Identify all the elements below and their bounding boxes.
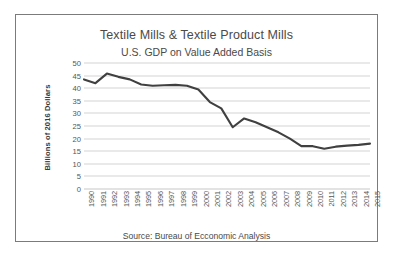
x-axis-tick-2003: 2003 [236, 191, 245, 207]
chart-frame: Textile Mills & Textile Product Mills U.… [15, 14, 378, 242]
x-axis-tick-2002: 2002 [224, 191, 233, 207]
x-axis-tick-2012: 2012 [339, 191, 348, 207]
y-axis-tick-35: 35 [61, 96, 81, 105]
x-axis-tick-1990: 1990 [87, 191, 96, 207]
y-axis-tick-20: 20 [61, 134, 81, 143]
x-axis-tick-2015: 2015 [373, 191, 382, 207]
x-axis-tick-2006: 2006 [270, 191, 279, 207]
y-axis-tick-50: 50 [61, 59, 81, 68]
x-axis-tick-1997: 1997 [167, 191, 176, 207]
y-axis-tick-40: 40 [61, 84, 81, 93]
x-axis-tick-2009: 2009 [305, 191, 314, 207]
x-axis-tick-2001: 2001 [213, 191, 222, 207]
x-axis-tick-1992: 1992 [110, 191, 119, 207]
x-axis-tick-2004: 2004 [247, 191, 256, 207]
x-axis-tick-2005: 2005 [259, 191, 268, 207]
y-axis-tick-5: 5 [61, 172, 81, 181]
y-axis-tick-10: 10 [61, 159, 81, 168]
chart-title: Textile Mills & Textile Product Mills [16, 28, 377, 42]
x-axis-tick-1999: 1999 [190, 191, 199, 207]
figure-root: Textile Mills & Textile Product Mills U.… [0, 0, 394, 258]
x-axis-labels-group: 1990199119921993199419951996199719981999… [84, 191, 370, 221]
y-axis-tick-15: 15 [61, 147, 81, 156]
x-axis-tick-2008: 2008 [293, 191, 302, 207]
plot-area: 50454035302520151050 [84, 63, 370, 189]
source-note: Source: Bureau of Ecconomic Analysis [16, 231, 377, 241]
series-line-chart [84, 63, 370, 189]
x-axis-tick-1998: 1998 [179, 191, 188, 207]
y-axis-tick-25: 25 [61, 122, 81, 131]
x-axis-tick-2014: 2014 [362, 191, 371, 207]
y-axis-tick-0: 0 [61, 185, 81, 194]
y-axis-tick-30: 30 [61, 109, 81, 118]
plot-wrapper: 50454035302520151050 [62, 63, 370, 189]
x-axis-tick-1991: 1991 [99, 191, 108, 207]
x-axis-tick-2000: 2000 [202, 191, 211, 207]
x-axis-tick-2011: 2011 [327, 191, 336, 207]
x-axis-tick-1994: 1994 [133, 191, 142, 207]
x-axis-tick-2010: 2010 [316, 191, 325, 207]
chart-subtitle: U.S. GDP on Value Added Basis [16, 46, 377, 58]
y-axis-tick-45: 45 [61, 71, 81, 80]
x-axis-tick-1996: 1996 [156, 191, 165, 207]
x-axis-tick-1995: 1995 [144, 191, 153, 207]
x-axis-tick-2013: 2013 [350, 191, 359, 207]
x-axis-tick-2007: 2007 [282, 191, 291, 207]
x-axis-tick-1993: 1993 [122, 191, 131, 207]
series-line-textile-mills [84, 74, 370, 149]
y-axis-title: Billions of 2016 Dollars [43, 68, 52, 188]
